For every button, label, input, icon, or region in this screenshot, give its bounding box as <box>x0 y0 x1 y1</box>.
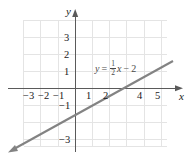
x-axis-label: x <box>179 91 184 102</box>
graph-figure: y x −3 −2 −1 1 2 4 5 3 2 1 −1 −3 y = 1 2… <box>0 0 192 157</box>
x-tick-label: 5 <box>155 90 160 101</box>
equation-variable: x <box>117 64 121 74</box>
y-axis-label: y <box>66 6 71 17</box>
equation-equals: = <box>101 64 107 74</box>
x-tick-label: 2 <box>103 90 108 101</box>
x-tick-label: 4 <box>137 90 142 101</box>
x-tick-label: 1 <box>86 90 91 101</box>
equation-annotation: y = 1 2 x − 2 <box>95 60 136 77</box>
equation-fraction: 1 2 <box>110 60 116 77</box>
y-tick-label: 2 <box>64 49 69 60</box>
coordinate-plane-svg <box>0 0 192 157</box>
y-tick-label: 1 <box>64 66 69 77</box>
grid-lines <box>24 20 167 146</box>
equation-lhs: y <box>95 64 99 74</box>
y-tick-label: 3 <box>64 32 69 43</box>
equation-minus: − <box>124 64 130 74</box>
line-arrowhead-left <box>8 145 18 153</box>
y-tick-label: −1 <box>59 100 70 111</box>
equation-constant: 2 <box>131 64 136 74</box>
y-axis <box>72 9 78 152</box>
y-axis-arrowhead <box>72 9 78 17</box>
fraction-denominator: 2 <box>110 69 116 77</box>
fraction-numerator: 1 <box>110 60 116 68</box>
x-tick-label: −3 <box>23 90 34 101</box>
x-tick-label: −2 <box>38 90 49 101</box>
y-tick-label: −3 <box>59 134 70 145</box>
